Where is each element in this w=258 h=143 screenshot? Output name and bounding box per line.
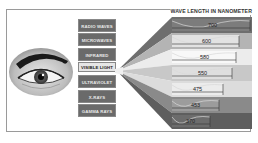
wavelength-700: 700	[208, 22, 217, 28]
label-visible-light: VISIBLE LIGHT	[78, 62, 116, 72]
eye-icon	[8, 47, 74, 97]
wavelength-370: 370	[186, 118, 195, 124]
spectrum-label-list: RADIO WAVES MICROWAVES INFRARED VISIBLE …	[78, 19, 116, 118]
wavelength-580: 580	[200, 54, 209, 60]
label-gamma-rays: GAMMA RAYS	[78, 104, 116, 117]
label-radio-waves: RADIO WAVES	[78, 19, 116, 32]
label-ultraviolet: ULTRAVIOLET	[78, 75, 116, 88]
label-microwaves: MICROWAVES	[78, 33, 116, 46]
label-infrared: INFRARED	[78, 48, 116, 61]
wavelength-600: 600	[202, 38, 211, 44]
label-x-rays: X-RAYS	[78, 90, 116, 103]
wavelength-550: 550	[198, 70, 207, 76]
spectrum-fan: 700 600 580 550 475 453 370	[115, 17, 253, 132]
wavelength-453: 453	[191, 102, 200, 108]
diagram-title: WAVE LENGTH IN NANOMETER	[170, 8, 253, 15]
wavelength-475: 475	[193, 86, 202, 92]
